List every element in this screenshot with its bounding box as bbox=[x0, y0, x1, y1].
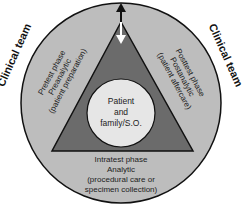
center-label-line-1: Patient bbox=[108, 96, 135, 106]
intratest-line-3: (procedural care or bbox=[87, 175, 155, 184]
diagram-canvas: Patient and family/S.O. Pretest phase Pr… bbox=[0, 0, 242, 212]
intratest-line-1: Intratest phase bbox=[95, 155, 148, 164]
intratest-line-2: Analytic bbox=[107, 165, 135, 174]
intratest-line-4: specimen collection) bbox=[85, 185, 158, 194]
center-label-line-2: and bbox=[114, 107, 128, 117]
center-label-line-3: family/S.O. bbox=[100, 118, 142, 128]
clinical-phases-diagram: Patient and family/S.O. Pretest phase Pr… bbox=[0, 0, 242, 212]
